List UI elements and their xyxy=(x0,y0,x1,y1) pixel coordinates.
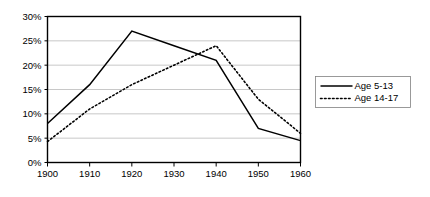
x-axis-tick-label: 1960 xyxy=(290,168,311,179)
y-axis-tick-label: 20% xyxy=(22,60,42,71)
y-axis-tick-label: 25% xyxy=(22,35,42,46)
y-axis-tick-label: 0% xyxy=(28,157,42,168)
legend-label-age-14-17: Age 14-17 xyxy=(355,92,399,103)
x-axis-tick-label: 1920 xyxy=(121,168,142,179)
y-axis-tick-label: 5% xyxy=(28,133,42,144)
x-axis-tick-label: 1900 xyxy=(37,168,58,179)
legend: Age 5-13 Age 14-17 xyxy=(316,77,411,108)
x-axis-tick-label: 1910 xyxy=(79,168,100,179)
y-axis-tick-label: 30% xyxy=(22,11,42,22)
chart-canvas: 0%5%10%15%20%25%30% 19001910192019301940… xyxy=(0,0,430,197)
x-axis-tick-label: 1940 xyxy=(206,168,227,179)
x-axis-tick-label: 1930 xyxy=(163,168,184,179)
x-axis-tick-label: 1950 xyxy=(248,168,269,179)
y-axis-tick-label: 10% xyxy=(22,108,42,119)
line-chart: 0%5%10%15%20%25%30% 19001910192019301940… xyxy=(0,0,430,197)
y-axis-tick-label: 15% xyxy=(22,84,42,95)
legend-label-age-5-13: Age 5-13 xyxy=(355,80,394,91)
